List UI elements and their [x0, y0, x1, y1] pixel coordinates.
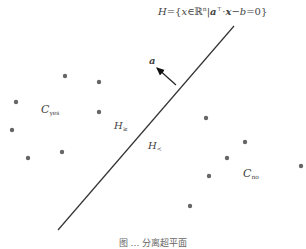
point-no: [188, 204, 192, 208]
figure-caption: 图 … 分离超平面: [0, 236, 306, 249]
point-no: [204, 116, 208, 120]
h-geq-sub: ≥: [123, 125, 128, 132]
h-geq-label: H≥: [114, 121, 128, 132]
point-yes: [97, 110, 101, 114]
hyperplane-line: [58, 26, 234, 230]
c-yes-sub: yes: [49, 109, 59, 116]
point-yes: [14, 100, 18, 104]
normal-vector-arrow: [157, 68, 176, 85]
c-no-label: Cno: [243, 168, 259, 180]
h-lt-label: H<: [148, 141, 162, 152]
class-no-points: [188, 116, 303, 208]
normal-vector-label: a: [149, 56, 155, 66]
class-yes-points: [10, 74, 101, 160]
h-geq-main: H: [114, 120, 123, 131]
point-yes: [26, 156, 30, 160]
point-no: [243, 140, 247, 144]
point-yes: [60, 150, 64, 154]
c-no-sub: no: [251, 173, 258, 180]
hyperplane-equation: H={x∈ℝn|a⊤·x−b=0}: [158, 5, 267, 17]
h-lt-sub: <: [157, 145, 162, 152]
c-yes-label: Cyes: [41, 104, 59, 116]
point-no: [225, 156, 229, 160]
point-no: [299, 164, 303, 168]
h-lt-main: H: [148, 140, 157, 151]
point-yes: [10, 128, 14, 132]
point-yes: [97, 80, 101, 84]
point-no: [207, 174, 211, 178]
point-yes: [63, 74, 67, 78]
